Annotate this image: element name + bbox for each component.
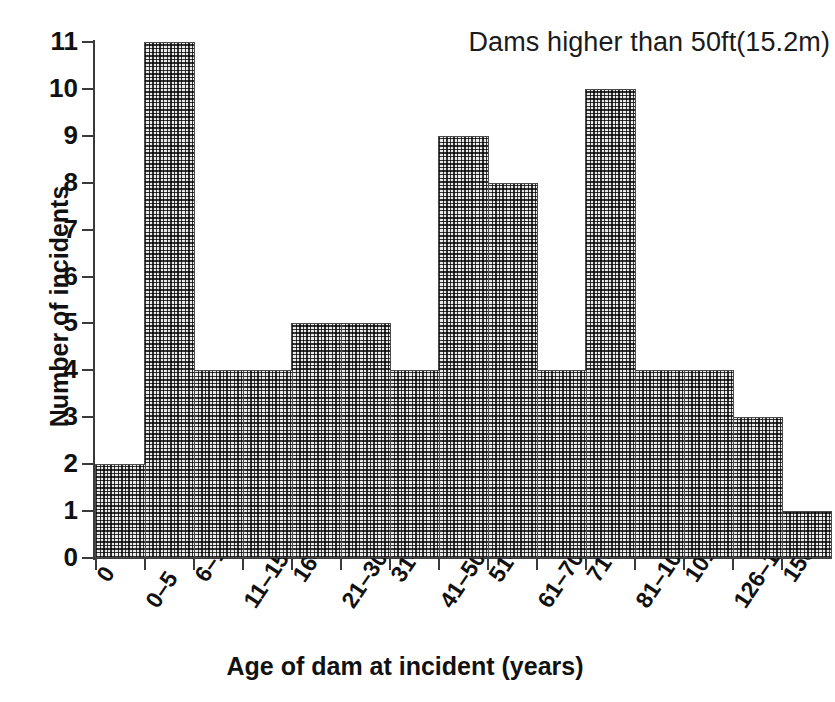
- y-axis-tick-label: 2: [38, 450, 78, 476]
- histogram-bar: [487, 183, 538, 558]
- y-axis-tick: [82, 276, 93, 278]
- bar-series: [95, 42, 830, 558]
- y-axis-tick: [82, 229, 93, 231]
- y-axis-tick-label: 3: [38, 403, 78, 429]
- histogram-bar: [291, 323, 342, 558]
- y-axis-tick: [82, 322, 93, 324]
- histogram-bar: [634, 370, 685, 558]
- y-axis-tick: [82, 510, 93, 512]
- histogram-bar: [95, 464, 146, 558]
- y-axis-tick: [82, 182, 93, 184]
- histogram-bar: [144, 42, 195, 558]
- x-axis-tick-label: 0: [91, 562, 120, 588]
- histogram-bar: [242, 370, 293, 558]
- histogram-bar: [781, 511, 832, 558]
- y-axis-tick: [82, 88, 93, 90]
- x-axis-tick-labels: 00–56–1011–1516–2021–3031–4041–5051–6061…: [0, 560, 835, 660]
- y-axis-tick-label: 7: [38, 216, 78, 242]
- y-axis-tick: [82, 463, 93, 465]
- y-axis-tick: [82, 416, 93, 418]
- histogram-bar: [438, 136, 489, 558]
- y-axis-tick-label: 10: [38, 75, 78, 101]
- x-axis-tick-label: 0–5: [140, 567, 184, 613]
- histogram-bar: [389, 370, 440, 558]
- y-axis-tick-label: 5: [38, 309, 78, 335]
- y-axis-tick-label: 6: [38, 263, 78, 289]
- y-axis-tick-label: 8: [38, 169, 78, 195]
- histogram-bar: [585, 89, 636, 558]
- y-axis-tick: [82, 41, 93, 43]
- histogram-bar: [193, 370, 244, 558]
- y-axis-tick-label: 4: [38, 356, 78, 382]
- histogram-figure: Dams higher than 50ft(15.2m) Number of i…: [0, 0, 835, 702]
- y-axis-tick: [82, 369, 93, 371]
- histogram-bar: [683, 370, 734, 558]
- y-axis-tick: [82, 135, 93, 137]
- y-axis-tick-label: 11: [38, 28, 78, 54]
- y-axis-tick-label: 1: [38, 497, 78, 523]
- histogram-bar: [732, 417, 783, 558]
- histogram-bar: [536, 370, 587, 558]
- y-axis-tick-label: 9: [38, 122, 78, 148]
- histogram-bar: [340, 323, 391, 558]
- y-axis-tick: [82, 557, 93, 559]
